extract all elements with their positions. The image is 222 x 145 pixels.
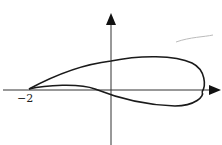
airfoil-lower-curve (29, 85, 203, 106)
y-axis-arrow-icon (106, 13, 116, 25)
smudge-mark (176, 35, 213, 42)
airfoil-upper-curve (29, 57, 204, 92)
x-axis-arrow-icon (209, 85, 221, 95)
airfoil-diagram (0, 0, 222, 145)
tick-label-minus-two: −2 (17, 92, 33, 105)
